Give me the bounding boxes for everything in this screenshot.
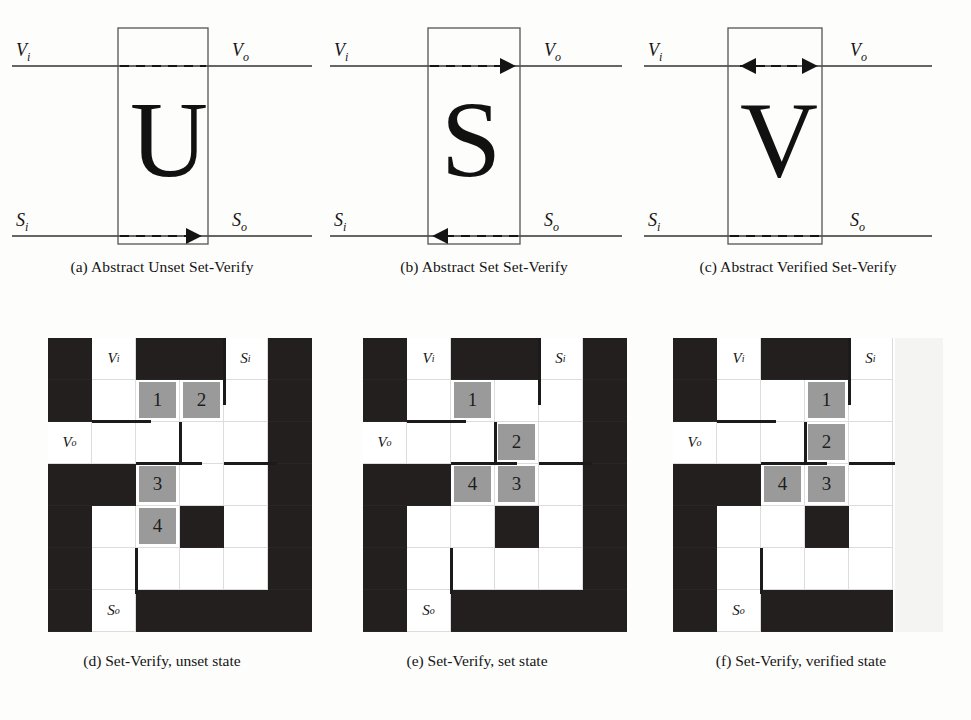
grid-cell-black (136, 338, 180, 380)
grid-cell-white (224, 422, 268, 464)
grid-wire-segment (848, 338, 851, 405)
grid-port-label-so: So (407, 590, 451, 632)
grid-cell-black (583, 338, 627, 380)
port-label-text: Vi (92, 338, 135, 379)
grid-cell-white (407, 380, 451, 422)
grid-cell-black (268, 464, 312, 506)
label-vo-c: Vo (850, 40, 867, 65)
grid-cell-signal-1: 1 (805, 380, 849, 422)
grid-cell-white (849, 464, 893, 506)
grid-f: ViSi1Vo243So (673, 338, 895, 632)
grid-cell-black (363, 464, 407, 506)
grid-cell-white (761, 506, 805, 548)
grid-cell-white (495, 548, 539, 590)
grid-cell-white (136, 422, 180, 464)
grid-cell-black (451, 338, 495, 380)
abstract-diagram-row: U Vi Vo Si So (a) Abstract Unset Set-Ver… (0, 0, 971, 300)
caption-f: (f) Set-Verify, verified state (639, 652, 963, 670)
grid-cell-white (717, 506, 761, 548)
port-label-text: Vi (717, 338, 760, 379)
grid-cell-black (583, 548, 627, 590)
label-si-a: Si (16, 210, 28, 235)
grid-wire-segment (849, 462, 902, 465)
caption-a: (a) Abstract Unset Set-Verify (0, 258, 324, 276)
grid-cell-white (717, 548, 761, 590)
port-label-text: Si (539, 338, 582, 379)
label-si-b: Si (334, 210, 346, 235)
signal-chip: 3 (498, 466, 535, 502)
grid-cell-black (136, 590, 180, 632)
grid-cell-black (495, 506, 539, 548)
grid-cell-black (268, 590, 312, 632)
abstract-letter-c: V (740, 86, 818, 194)
grid-wire-segment (136, 462, 202, 465)
grid-cell-black (583, 380, 627, 422)
grid-cell-white (136, 548, 180, 590)
grid-cell-black (805, 338, 849, 380)
grid-cell-black (583, 590, 627, 632)
grid-cell-white (761, 422, 805, 464)
label-vi-c: Vi (648, 40, 662, 65)
label-so-c: So (850, 210, 865, 235)
grid-port-label-so: So (717, 590, 761, 632)
grid-cell-black (407, 464, 451, 506)
caption-e: (e) Set-Verify, set state (315, 652, 639, 670)
label-vi-a: Vi (16, 40, 30, 65)
grid-cell-white (92, 506, 136, 548)
grid-wire-segment (717, 420, 776, 423)
grid-cell-black (48, 464, 92, 506)
abstract-letter-a: U (130, 86, 208, 194)
grid-cell-white (224, 548, 268, 590)
grid-cell-black (48, 548, 92, 590)
abstract-panel-b: S Vi Vo Si So (b) Abstract Set Set-Verif… (322, 0, 646, 300)
grid-cell-white (849, 506, 893, 548)
grid-cell-black (673, 506, 717, 548)
grid-cell-black (92, 464, 136, 506)
signal-chip: 4 (454, 466, 491, 502)
grid-wire-segment (451, 462, 517, 465)
grid-cell-black (363, 506, 407, 548)
grid-cell-white (180, 464, 224, 506)
grid-cell-black (673, 590, 717, 632)
grid-wire-segment (224, 462, 277, 465)
grid-panel-e: ViSi1Vo243So (e) Set-Verify, set state (315, 300, 639, 720)
grid-wire-segment (179, 422, 182, 464)
grid-cell-white (539, 464, 583, 506)
grid-cell-black (539, 590, 583, 632)
grid-wire-segment (494, 422, 497, 464)
port-label-text: Vo (673, 422, 716, 463)
abstract-letter-b: S (441, 86, 501, 194)
grid-cell-black (48, 590, 92, 632)
signal-chip: 4 (764, 466, 801, 502)
grid-cell-signal-4: 4 (451, 464, 495, 506)
grid-cell-black (224, 590, 268, 632)
grid-cell-signal-3: 3 (136, 464, 180, 506)
grid-cell-white (539, 548, 583, 590)
grid-cell-white (717, 380, 761, 422)
grid-cell-signal-4: 4 (761, 464, 805, 506)
grid-cell-signal-2: 2 (495, 422, 539, 464)
grid-cell-white (539, 506, 583, 548)
port-label-text: Vo (363, 422, 406, 463)
caption-c: (c) Abstract Verified Set-Verify (636, 258, 960, 276)
port-label-text: So (407, 590, 450, 631)
signal-chip: 3 (808, 466, 845, 502)
grid-cell-black (268, 506, 312, 548)
grid-cell-white (180, 548, 224, 590)
grid-cell-white (849, 548, 893, 590)
grid-cell-white (539, 422, 583, 464)
grid-e: ViSi1Vo243So (363, 338, 627, 632)
grid-cell-black (268, 338, 312, 380)
port-label-text: So (92, 590, 135, 631)
grid-wire-segment (804, 422, 807, 464)
grid-port-label-vi: Vi (717, 338, 761, 380)
grid-port-label-vi: Vi (92, 338, 136, 380)
grid-port-label-vo: Vo (673, 422, 717, 464)
grid-diagram-row: ViSi12Vo34So (d) Set-Verify, unset state… (0, 300, 971, 720)
signal-chip: 1 (139, 382, 176, 418)
grid-cell-signal-1: 1 (451, 380, 495, 422)
label-si-c: Si (648, 210, 660, 235)
grid-cell-black (363, 338, 407, 380)
grid-wire-segment (223, 338, 226, 405)
grid-cell-black (180, 590, 224, 632)
